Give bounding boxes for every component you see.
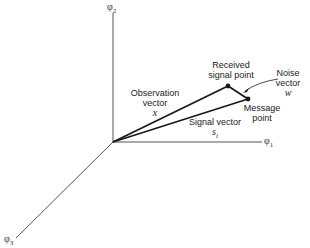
phi1-label: φ1 (264, 135, 273, 149)
arrowhead-icon (243, 88, 249, 93)
noise-vector-label: Noise vector w (270, 68, 306, 98)
signal-vector-label: Signal vector si (185, 117, 245, 141)
received-signal-label: Received signal point (203, 60, 259, 80)
phi2-label: φ2 (107, 1, 116, 15)
message-point (246, 97, 251, 102)
received-signal-point (226, 84, 231, 89)
phi3-axis (16, 142, 113, 238)
observation-vector-label: Observation vector x (125, 88, 185, 118)
message-point-label: Message point (240, 103, 284, 123)
signal-space-diagram (0, 0, 310, 248)
phi3-label: φ3 (4, 233, 13, 247)
